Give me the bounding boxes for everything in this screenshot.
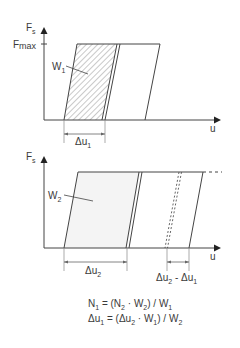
bottom-dotted-line-a (165, 172, 179, 248)
formula-n1: N1 = (N2 · W2) / W1 (88, 298, 172, 311)
formula-text: = (N (99, 298, 121, 309)
bottom-chart: Fs u W2 Δu2 Δu2 - Δu1 (26, 151, 222, 285)
du1-arrow-right-icon (101, 133, 105, 136)
bottom-y-axis-label: Fs (26, 151, 36, 164)
formula-sub: 2 (178, 319, 182, 326)
bottom-dotted-line-b (168, 172, 182, 248)
w2-label: W2 (48, 190, 61, 203)
bottom-right-edge (189, 172, 203, 248)
top-x-axis-label: u (210, 123, 216, 134)
bottom-x-axis-label: u (210, 251, 216, 262)
formula-text: Δu (88, 313, 100, 324)
du2-arrow-left-icon (64, 261, 68, 264)
formula-sub: 1 (168, 304, 172, 311)
fmax-label: Fmax (13, 39, 37, 51)
du1-arrow-left-icon (64, 133, 68, 136)
diff-arrow-right-icon (185, 261, 189, 264)
du2-arrow-right-icon (123, 261, 127, 264)
formula-du1: Δu1 = (Δu2 · W1) / W2 (88, 313, 182, 326)
top-right-edge (145, 44, 160, 120)
formula-text: · W (125, 298, 143, 309)
top-y-axis-label: Fs (26, 22, 36, 35)
hysteresis-diagram: Fs Fmax u W1 Δu1 (0, 0, 240, 348)
formula-text: ) / W (147, 298, 168, 309)
formula-text: = (Δu (104, 313, 131, 324)
du1-label: Δu1 (75, 136, 91, 149)
top-chart: Fs Fmax u W1 Δu1 (13, 22, 221, 149)
bottom-y-axis-arrow-icon (41, 156, 48, 163)
top-y-axis-arrow-icon (41, 27, 48, 34)
diff-arrow-left-icon (167, 261, 171, 264)
du2-label: Δu2 (85, 265, 101, 278)
formula-text: ) / W (157, 313, 178, 324)
w1-label: W1 (52, 61, 65, 74)
diff-label: Δu2 - Δu1 (156, 272, 197, 285)
formula-text: · W (135, 313, 153, 324)
